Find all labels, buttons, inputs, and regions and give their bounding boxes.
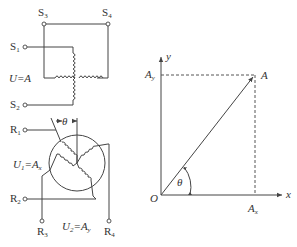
theta-arc [184,167,191,195]
vector-a-label: A [260,69,268,81]
vector-diagram: θ O x y A Ax Ay [144,50,291,216]
s3-terminal [42,22,46,26]
r1-terminal [23,128,27,132]
theta-label: θ [177,176,183,188]
rotor-angle-label: θ [62,115,68,127]
s3-lead-wire [44,24,55,78]
u1-label: U1=Ax [13,158,43,172]
r4-label: R4 [104,225,115,239]
ax-label: Ax [247,202,259,216]
s1-label: S1 [10,40,20,54]
r3-label: R3 [37,225,48,239]
resolver-diagram: S3 S4 S1 S2 U=A θ R1 R2 R3 R4 [0,0,297,247]
y-axis-label: y [165,50,171,62]
r3-lead-wire [42,170,50,219]
rotor-coil-3 [50,154,77,170]
vertical-stator-coil-bottom [27,78,75,105]
u2-label: U2=Ay [62,220,92,234]
s1-terminal [23,45,27,49]
r3-terminal [40,219,44,223]
rotor-coil-1 [62,142,77,163]
r2-terminal [23,197,27,201]
rotor-winding-diagram: θ R1 R2 R3 R4 U1=Ax U2=Ay [10,115,115,239]
r2-label: R2 [10,192,21,206]
s1-lead-wire [27,47,73,53]
s3-label: S3 [38,6,48,20]
x-axis-label: x [285,188,291,200]
vector-a [161,77,253,195]
r1-label: R1 [10,123,21,137]
stator-voltage-label: U=A [9,72,31,84]
r4-lead-wire [108,144,109,219]
vertical-stator-coil-top [73,53,75,78]
s4-terminal [106,22,110,26]
r2-lead-wire [27,196,96,199]
s2-terminal [23,103,27,107]
origin-label: O [150,192,158,204]
s4-lead-wire [44,24,108,78]
s2-label: S2 [10,98,20,112]
horizontal-stator-coil [55,76,103,78]
ay-label: Ay [144,68,156,82]
r4-terminal [107,219,111,223]
stator-winding-diagram: S3 S4 S1 S2 U=A [9,6,112,112]
s4-label: S4 [102,6,112,20]
